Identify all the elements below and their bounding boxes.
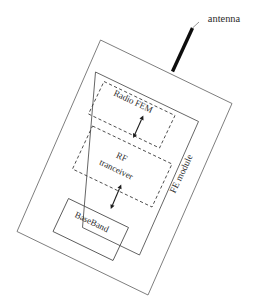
rf-tranceiver-label-line1: RF xyxy=(115,150,129,164)
radio-fem-group[interactable]: Radio FEM xyxy=(89,82,176,149)
antenna-leader-line xyxy=(193,22,200,28)
antenna-line[interactable] xyxy=(173,28,193,72)
radio-fem-to-rf-tranceiver-arrow xyxy=(135,120,142,135)
radio-fem-label: Radio FEM xyxy=(112,88,154,115)
block-diagram: FE module Radio FEM RF tranceiver BaseBa… xyxy=(0,0,253,308)
baseband-label: BaseBand xyxy=(73,209,111,234)
connections-group xyxy=(113,120,142,206)
rf-tranceiver-to-baseband-arrow xyxy=(113,189,120,206)
antenna-label: antenna xyxy=(208,13,241,24)
radio-fem-rect[interactable] xyxy=(89,82,176,149)
baseband-group[interactable]: BaseBand xyxy=(53,199,129,261)
fe-module-label: FE module xyxy=(168,153,195,195)
baseband-rect[interactable] xyxy=(53,199,129,261)
antenna-group[interactable]: antenna xyxy=(173,13,241,72)
diagram-canvas: FE module Radio FEM RF tranceiver BaseBa… xyxy=(0,0,253,308)
rf-tranceiver-label-line2: tranceiver xyxy=(98,157,135,182)
